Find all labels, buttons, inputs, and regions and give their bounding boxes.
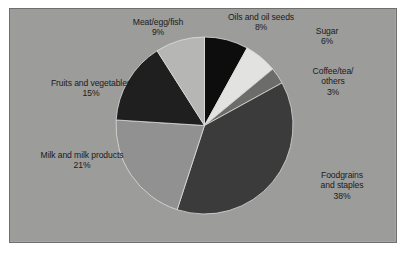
- slice-label-fruits-and-vegetables-line1: Fruits and vegetables: [51, 78, 131, 88]
- slice-label-meat-egg-fish: Meat/egg/fish 9%: [111, 17, 205, 38]
- slice-label-fruits-and-vegetables-percent: 15%: [30, 88, 152, 98]
- slice-label-coffee-tea-others-line2: others: [301, 76, 365, 86]
- slice-label-meat-egg-fish-line1: Meat/egg/fish: [133, 17, 183, 27]
- slice-label-milk-and-milk-products-percent: 21%: [17, 160, 147, 170]
- slice-label-sugar: Sugar 6%: [299, 26, 355, 47]
- slice-label-oils-and-oil-seeds-percent: 8%: [213, 22, 309, 32]
- slice-label-sugar-percent: 6%: [299, 36, 355, 46]
- slice-label-coffee-tea-others: Coffee/tea/ others 3%: [301, 66, 365, 97]
- slice-label-foodgrains-and-staples: Foodgrains and staples 38%: [305, 170, 379, 201]
- slice-label-oils-and-oil-seeds-line1: Oils and oil seeds: [228, 12, 294, 22]
- slice-label-foodgrains-and-staples-line2: and staples: [305, 180, 379, 190]
- slice-label-fruits-and-vegetables: Fruits and vegetables 15%: [30, 78, 152, 99]
- slice-label-foodgrains-and-staples-percent: 38%: [305, 191, 379, 201]
- slice-label-coffee-tea-others-line1: Coffee/tea/: [313, 66, 354, 76]
- slice-label-milk-and-milk-products-line1: Milk and milk products: [41, 150, 124, 160]
- slice-label-sugar-line1: Sugar: [316, 26, 338, 36]
- slice-label-milk-and-milk-products: Milk and milk products 21%: [17, 150, 147, 171]
- pie-chart-figure: Oils and oil seeds 8% Sugar 6% Coffee/te…: [0, 0, 408, 254]
- slice-label-coffee-tea-others-percent: 3%: [301, 87, 365, 97]
- pie-slices-group: [116, 37, 293, 214]
- slice-label-foodgrains-and-staples-line1: Foodgrains: [321, 170, 363, 180]
- slice-label-meat-egg-fish-percent: 9%: [111, 27, 205, 37]
- slice-label-oils-and-oil-seeds: Oils and oil seeds 8%: [213, 12, 309, 33]
